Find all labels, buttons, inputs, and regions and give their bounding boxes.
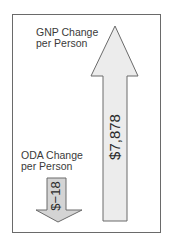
oda-value: $−18: [48, 171, 64, 221]
gnp-label-line2: per Person: [36, 38, 98, 49]
gnp-label: GNP Change per Person: [36, 27, 98, 49]
oda-label: ODA Change per Person: [21, 150, 83, 172]
gnp-value: $7,878: [106, 97, 124, 177]
